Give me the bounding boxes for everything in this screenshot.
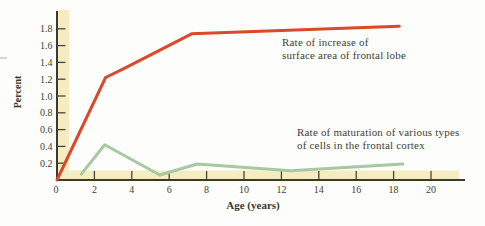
y-axis-band xyxy=(58,10,69,180)
x-axis-title: Age (years) xyxy=(226,199,279,211)
green-series-annotation: Rate of maturation of various types of c… xyxy=(297,126,460,152)
y-tick-label: 1.0 xyxy=(40,91,53,102)
origin-tick-label: 0 xyxy=(54,184,59,195)
y-tick-label: 1.6 xyxy=(40,40,53,51)
scan-edge-mark xyxy=(0,57,7,59)
x-axis-band xyxy=(57,171,459,181)
green-series-annotation-line1: Rate of maturation of various types xyxy=(297,126,460,139)
red-series-annotation-line1: Rate of increase of xyxy=(282,36,406,49)
green-series-annotation-line2: of cells in the frontal cortex xyxy=(297,139,460,152)
x-tick-label: 10 xyxy=(239,184,249,195)
y-tick-label: 0.2 xyxy=(40,158,53,169)
chart-plot-area: 0.20.40.60.81.01.21.41.61.82468101214161… xyxy=(0,0,485,226)
frontal-lobe-development-chart: 0.20.40.60.81.01.21.41.61.82468101214161… xyxy=(0,0,485,226)
red-series-annotation: Rate of increase of surface area of fron… xyxy=(282,36,406,62)
x-tick-label: 4 xyxy=(129,184,134,195)
x-tick-label: 6 xyxy=(167,184,172,195)
y-axis-title: Percent xyxy=(12,76,23,109)
y-tick-label: 1.4 xyxy=(40,57,53,68)
x-tick-label: 16 xyxy=(351,184,361,195)
red-series-annotation-line2: surface area of frontal lobe xyxy=(282,49,406,62)
x-tick-label: 12 xyxy=(276,184,286,195)
x-tick-label: 14 xyxy=(314,184,324,195)
x-tick-label: 18 xyxy=(389,184,399,195)
x-tick-label: 20 xyxy=(426,184,436,195)
x-tick-label: 2 xyxy=(92,184,97,195)
x-tick-label: 8 xyxy=(204,184,209,195)
y-tick-label: 1.2 xyxy=(40,74,53,85)
y-tick-label: 0.6 xyxy=(40,124,53,135)
y-tick-label: 0.4 xyxy=(40,141,53,152)
y-tick-label: 1.8 xyxy=(40,23,53,34)
y-tick-label: 0.8 xyxy=(40,107,53,118)
